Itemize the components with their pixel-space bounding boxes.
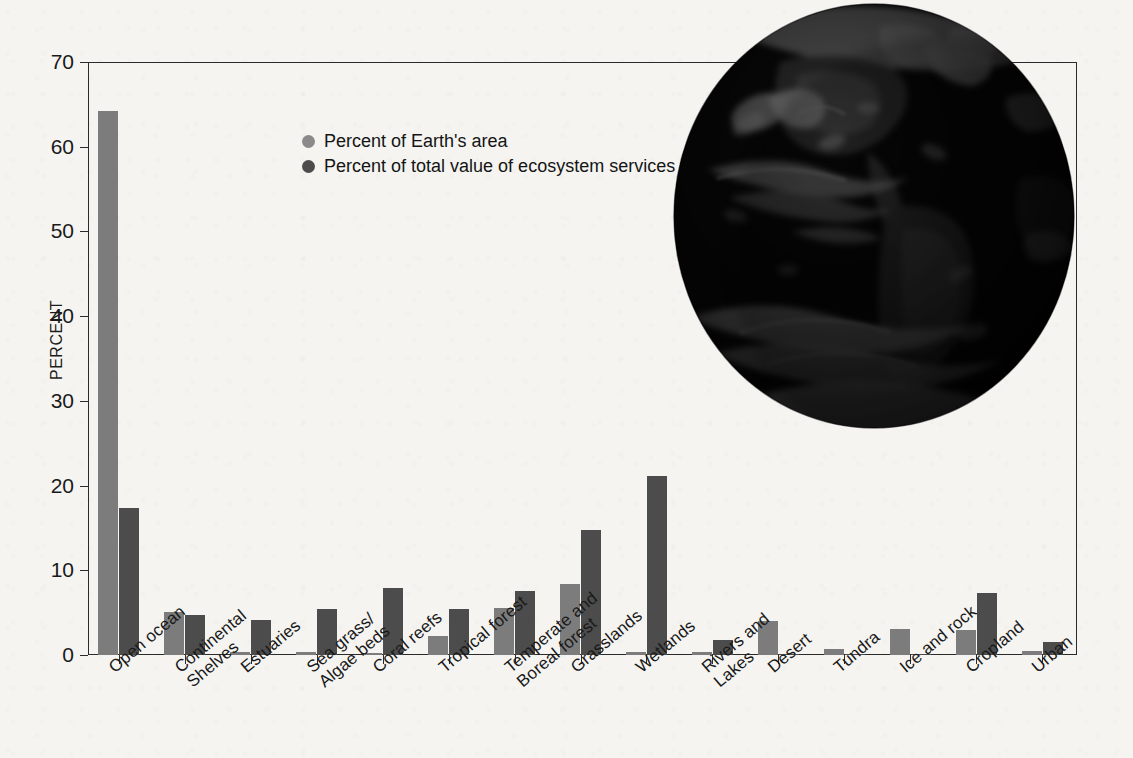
chart-legend: Percent of Earth's areaPercent of total … xyxy=(302,131,675,181)
y-tick-mark xyxy=(80,316,88,317)
legend-item: Percent of Earth's area xyxy=(302,131,675,152)
y-tick-label: 40 xyxy=(30,304,74,328)
y-tick-mark xyxy=(80,147,88,148)
y-tick-mark xyxy=(80,62,88,63)
legend-item: Percent of total value of ecosystem serv… xyxy=(302,156,675,177)
y-tick-label: 50 xyxy=(30,219,74,243)
bar xyxy=(890,629,910,655)
legend-swatch-dark-icon xyxy=(302,160,315,173)
legend-swatch-light-icon xyxy=(302,135,315,148)
legend-label: Percent of total value of ecosystem serv… xyxy=(324,156,675,177)
y-tick-mark xyxy=(80,570,88,571)
y-tick-mark xyxy=(80,486,88,487)
y-tick-label: 60 xyxy=(30,135,74,159)
bar xyxy=(98,111,118,655)
y-tick-mark xyxy=(80,401,88,402)
bar xyxy=(647,476,667,655)
y-tick-label: 10 xyxy=(30,558,74,582)
y-tick-label: 0 xyxy=(30,643,74,667)
y-tick-mark xyxy=(80,655,88,656)
figure-canvas: PERCENT 010203040506070 Open oceanContin… xyxy=(0,0,1133,758)
y-axis-title: PERCENT xyxy=(48,280,66,400)
legend-label: Percent of Earth's area xyxy=(324,131,508,152)
y-tick-mark xyxy=(80,231,88,232)
bar xyxy=(119,508,139,655)
y-tick-label: 70 xyxy=(30,50,74,74)
y-tick-label: 20 xyxy=(30,474,74,498)
y-tick-label: 30 xyxy=(30,389,74,413)
